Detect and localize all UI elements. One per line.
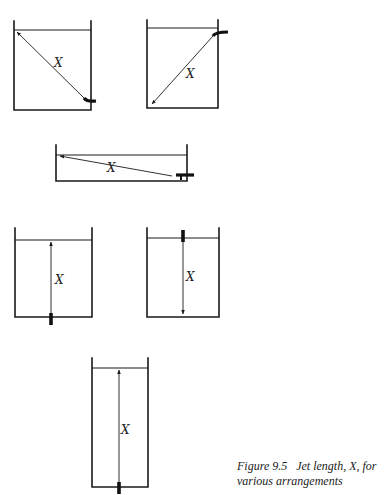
- tank-1: X: [14, 21, 96, 110]
- figure-caption-label: Figure 9.5: [237, 459, 287, 473]
- tank-2: X: [147, 20, 228, 108]
- figure-caption: Figure 9.5 Jet length, X, for various ar…: [237, 459, 387, 489]
- tank-3-jet-arrow: [60, 156, 172, 176]
- tank-6-walls: [92, 358, 148, 487]
- jet-length-diagram: X X X X X X: [0, 0, 391, 495]
- tank-2-walls: [147, 20, 218, 108]
- tank-2-jet-arrow: [152, 36, 213, 104]
- tank-1-x-label: X: [53, 56, 63, 70]
- tank-6-x-label: X: [120, 423, 130, 437]
- tank-6: X: [92, 358, 148, 494]
- tank-5: X: [147, 228, 219, 317]
- tank-3-x-label: X: [106, 161, 116, 175]
- tank-4: X: [15, 228, 92, 325]
- tank-2-nozzle: [213, 32, 228, 36]
- tank-1-walls: [14, 21, 91, 110]
- tank-4-walls: [15, 228, 92, 317]
- tank-4-x-label: X: [54, 273, 64, 287]
- tank-1-jet-arrow: [17, 32, 84, 98]
- tank-3: X: [56, 145, 194, 181]
- tank-5-x-label: X: [185, 270, 195, 284]
- tank-1-nozzle: [84, 98, 96, 101]
- tank-2-x-label: X: [185, 67, 195, 81]
